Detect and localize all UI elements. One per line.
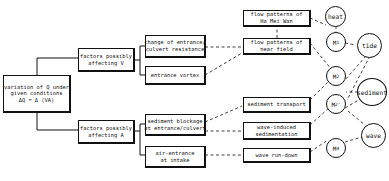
driver-wave-node: wave	[361, 123, 386, 148]
model-m4-node: M4	[326, 138, 346, 158]
cause-entrance-vortex-box: entrance vortex	[145, 66, 206, 85]
factors-a-box: factors possibly affecting A	[78, 120, 135, 144]
root-line-3: ΔQ = Δ (VA)	[19, 97, 55, 104]
cause-air-entrance-box: air-entrance at intake	[145, 146, 206, 168]
process-4-line-1: wave-induced	[257, 124, 296, 131]
driver-tide-label: tide	[362, 42, 377, 49]
factors-v-box: factors possibly affecting V	[78, 48, 135, 72]
process-2-line-1: flow patterns of	[251, 39, 303, 46]
cause-2-line-1: entrance vortex	[151, 72, 200, 79]
process-5-line-1: wave run-down	[255, 152, 297, 159]
driver-sediment-label: sediment	[357, 89, 387, 96]
model-m2-node: M2	[326, 66, 346, 86]
cause-3-line-1: sediment blockage	[147, 118, 202, 125]
process-ha-mei-wan-box: flow patterns of Ha Mei Wan	[243, 10, 311, 27]
process-sediment-transport-box: sediment transport	[243, 97, 311, 113]
model-m4-sub: 4	[336, 146, 339, 151]
model-m1-node: M1	[326, 32, 346, 52]
cause-sediment-blockage-box: sediment blockage at entrance/culvert	[145, 114, 206, 136]
root-line-1: variation of Q under	[4, 84, 69, 91]
cause-4-line-1: air-entrance	[156, 150, 195, 157]
process-1-line-1: flow patterns of	[251, 11, 303, 18]
process-3-line-1: sediment transport	[247, 101, 305, 108]
driver-sediment-node: sediment	[357, 78, 387, 106]
model-m1-sub: 1	[336, 40, 339, 45]
model-m2-prime-node: M2'	[326, 94, 346, 114]
cause-1-line-2: culvert resistance	[146, 46, 204, 53]
process-wave-sedimentation-box: wave-induced sedimentation	[243, 122, 311, 140]
process-2-line-2: near field	[260, 46, 292, 53]
process-near-field-box: flow patterns of near field	[243, 38, 311, 55]
cause-3-line-2: at entrance/culvert	[144, 125, 206, 132]
cause-entrance-resistance-box: change of entrance/ culvert resistance	[145, 35, 206, 58]
driver-wave-label: wave	[366, 132, 381, 139]
root-line-2: given conditions	[11, 90, 63, 97]
process-1-line-2: Ha Mei Wan	[260, 18, 292, 25]
factors-a-line-2: affecting A	[88, 132, 124, 139]
driver-heat-node: heat	[325, 6, 346, 27]
root-box: variation of Q under given conditions ΔQ…	[3, 75, 71, 113]
model-m2-prime-sub: 2'	[335, 102, 340, 107]
cause-1-line-1: change of entrance/	[144, 39, 206, 46]
process-4-line-2: sedimentation	[255, 131, 297, 138]
model-m2-sub: 2	[336, 74, 339, 79]
factors-a-line-1: factors possibly	[80, 125, 132, 132]
driver-tide-node: tide	[357, 33, 382, 58]
factors-v-line-2: affecting V	[88, 60, 124, 67]
driver-heat-label: heat	[328, 13, 343, 20]
process-wave-run-down-box: wave run-down	[243, 148, 311, 163]
cause-4-line-2: at intake	[160, 157, 189, 164]
factors-v-line-1: factors possibly	[80, 53, 132, 60]
